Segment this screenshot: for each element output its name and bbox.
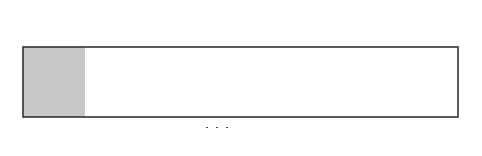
- shaded-column: [23, 47, 85, 117]
- fraction-scaled: [216, 127, 218, 128]
- numerator: [216, 127, 218, 128]
- whole-rectangle: [23, 47, 458, 117]
- fraction-fifteen-over-105: [226, 127, 228, 128]
- fraction-one-seventh: [206, 127, 208, 128]
- fraction-diagram: [0, 0, 482, 156]
- numerator: [206, 127, 208, 128]
- numerator: [226, 127, 228, 128]
- equation: [206, 127, 228, 128]
